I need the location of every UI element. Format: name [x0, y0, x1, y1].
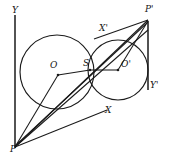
geometry-figure: Y P O S O' X X' P' Y' [0, 0, 169, 166]
label-center-o: O [50, 61, 57, 70]
label-point-p-prime: P' [145, 5, 154, 14]
label-y-axis: Y [12, 6, 18, 15]
center-dot-o-prime [117, 69, 120, 72]
large-circle [20, 35, 94, 109]
line-p-to-s-extended [15, 30, 148, 147]
label-tangent-point-s: S [83, 59, 89, 68]
figure-canvas [0, 0, 169, 166]
label-point-p: P [10, 145, 16, 154]
ray-p-to-x [15, 110, 107, 147]
tangent-dot-s [89, 69, 91, 71]
label-y-axis-prime: Y' [150, 81, 158, 90]
label-center-o-prime: O' [121, 60, 131, 69]
line-p-prime-to-s [15, 22, 148, 146]
label-x-axis: X [105, 106, 111, 115]
radius-o-to-s [58, 70, 90, 75]
label-x-axis-prime: X' [99, 24, 108, 33]
center-dot-o [57, 74, 60, 77]
segment-p-to-o [15, 75, 58, 147]
